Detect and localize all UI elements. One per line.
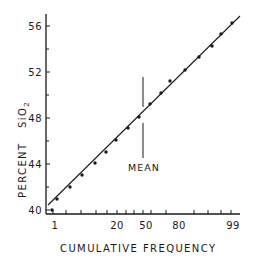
probability-plot: 56 52 48 44 40 1 20 50 80 99 CUMULATIVE … — [0, 0, 256, 268]
y-tick-56: 56 — [28, 21, 42, 32]
data-point — [55, 197, 58, 200]
data-point — [148, 102, 151, 105]
x-tick-20: 20 — [110, 220, 124, 231]
data-point — [93, 161, 96, 164]
y-axis-title-sub: 2 — [23, 101, 31, 107]
data-point — [137, 115, 140, 118]
data-point — [230, 21, 233, 24]
data-point — [168, 79, 171, 82]
x-axis-title: CUMULATIVE FREQUENCY — [60, 243, 216, 254]
y-tick-44: 44 — [28, 159, 42, 170]
data-point — [126, 126, 129, 129]
y-tick-48: 48 — [28, 113, 42, 124]
data-point — [114, 138, 117, 141]
data-point — [68, 185, 71, 188]
y-axis-title-main: PERCENT — [17, 143, 28, 199]
x-tick-80: 80 — [172, 220, 186, 231]
data-point — [50, 208, 53, 211]
y-tick-52: 52 — [28, 67, 42, 78]
x-tick-1: 1 — [52, 220, 59, 231]
mean-label: MEAN — [128, 162, 160, 173]
data-point — [104, 150, 107, 153]
data-point — [197, 55, 200, 58]
data-point — [183, 68, 186, 71]
data-point — [80, 173, 83, 176]
data-point — [210, 44, 213, 47]
x-tick-99: 99 — [226, 220, 240, 231]
data-point — [159, 91, 162, 94]
data-point — [219, 32, 222, 35]
y-tick-40: 40 — [28, 205, 42, 216]
fit-line — [48, 16, 240, 205]
y-axis-title-chem: SiO — [17, 107, 28, 128]
x-tick-50: 50 — [139, 220, 153, 231]
